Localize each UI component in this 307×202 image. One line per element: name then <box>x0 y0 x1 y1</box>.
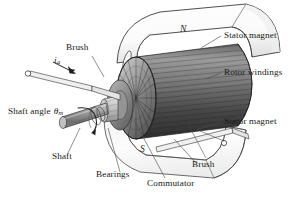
shaft-angle-text: Shaft angle <box>8 106 51 116</box>
north-pole-label: N <box>180 24 186 34</box>
dc-motor-figure: N S Stator magnet Rotor windings Stator … <box>0 0 307 202</box>
label-shaft: Shaft <box>52 152 72 161</box>
brush-lead-top <box>25 62 120 100</box>
label-brush-top: Brush <box>66 43 88 52</box>
current-subscript-a: a <box>57 58 61 65</box>
label-bearings: Bearings <box>96 170 129 179</box>
label-stator-magnet-top: Stator magnet <box>224 31 277 40</box>
label-commutator: Commutator <box>147 179 194 188</box>
south-pole-label: S <box>140 144 145 154</box>
leader-brush-top <box>92 56 104 77</box>
label-brush-bottom: Brush <box>192 160 214 169</box>
label-stator-magnet-bottom: Stator magnet <box>224 117 277 126</box>
theta-subscript-m: m <box>58 109 63 116</box>
label-shaft-angle: Shaft angleθm <box>8 107 63 117</box>
label-rotor-windings: Rotor windings <box>224 68 282 77</box>
armature-current-symbol: ia <box>54 56 60 66</box>
